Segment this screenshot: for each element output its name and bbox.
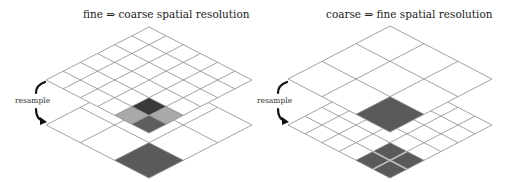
left-panel-title: fine ⇒ coarse spatial resolution xyxy=(83,8,250,20)
left-resample-arrow-arc xyxy=(36,82,45,93)
right-resample-label: resample xyxy=(257,96,292,105)
right-resample-arrow-arrowhead-icon xyxy=(282,117,289,125)
right-panel-title: coarse ⇒ fine spatial resolution xyxy=(326,8,493,20)
resampling-diagram xyxy=(0,0,508,182)
left-resample-arrow-arrowhead-icon xyxy=(40,117,47,125)
left-resample-label: resample xyxy=(15,96,50,105)
right-resample-arrow-arc xyxy=(278,82,287,93)
